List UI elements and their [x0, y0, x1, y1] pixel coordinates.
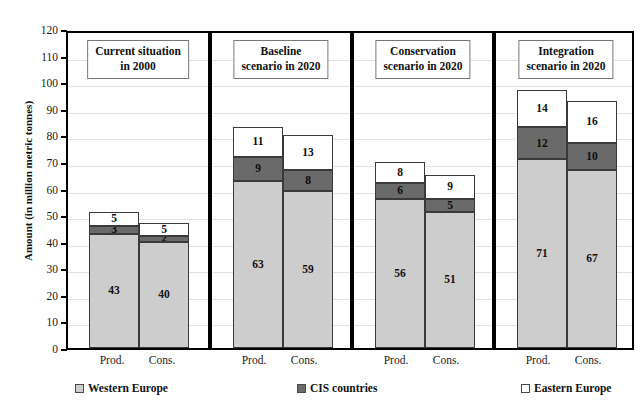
- bar-segment-cis[interactable]: 2: [139, 236, 189, 241]
- y-axis-title: Amount (in million metric tonnes): [22, 31, 34, 331]
- bar-segment-cis[interactable]: 10: [567, 143, 617, 170]
- bar-value-label: 5: [447, 200, 453, 212]
- scenario-panel: Baselinescenario in 20206391159813: [210, 33, 352, 348]
- bar-value-label: 59: [302, 264, 314, 276]
- bar-value-label: 8: [305, 175, 311, 187]
- bar-value-label: 13: [302, 147, 314, 159]
- stacked-bar[interactable]: 5668: [375, 162, 425, 348]
- panel-header-line-2: in 2000: [95, 59, 181, 74]
- bar-segment-eastern[interactable]: 5: [89, 212, 139, 225]
- bar-value-label: 71: [536, 248, 548, 260]
- bar-segment-cis[interactable]: 8: [283, 170, 333, 191]
- bar-value-label: 67: [586, 253, 598, 265]
- x-tick-label: Cons.: [279, 354, 329, 366]
- legend-swatch-icon: [297, 384, 306, 393]
- bar-segment-cis[interactable]: 9: [233, 157, 283, 181]
- bar-segment-eastern[interactable]: 8: [375, 162, 425, 183]
- y-tick-label: 40: [30, 237, 58, 249]
- bar-segment-eastern[interactable]: 14: [517, 90, 567, 127]
- bar-segment-western[interactable]: 67: [567, 170, 617, 348]
- scenario-panel: Conservationscenario in 202056685159: [352, 33, 494, 348]
- x-tick-label: Prod.: [87, 354, 137, 366]
- bar-value-label: 9: [255, 163, 261, 175]
- y-tick-label: 50: [30, 210, 58, 222]
- bar-value-label: 10: [586, 151, 598, 163]
- panel-header-line-1: Integration: [526, 44, 605, 59]
- stacked-bar[interactable]: 63911: [233, 127, 283, 348]
- bar-value-label: 43: [108, 285, 120, 297]
- x-tick-label: Prod.: [371, 354, 421, 366]
- bar-value-label: 14: [536, 103, 548, 115]
- bar-segment-western[interactable]: 63: [233, 181, 283, 348]
- scenario-panel: Integrationscenario in 2020711214671016: [494, 33, 636, 348]
- legend-item[interactable]: CIS countries: [297, 382, 377, 394]
- chart-title: in 2020 under the three alternative scen…: [0, 0, 642, 4]
- y-tick-label: 70: [30, 157, 58, 169]
- bar-segment-western[interactable]: 51: [425, 212, 475, 348]
- stacked-bar[interactable]: 711214: [517, 90, 567, 348]
- bar-segment-eastern[interactable]: 5: [139, 223, 189, 236]
- chart-legend: Western EuropeCIS countriesEastern Europ…: [0, 382, 642, 402]
- bar-value-label: 5: [111, 213, 117, 225]
- stacked-bar[interactable]: 5159: [425, 175, 475, 348]
- y-tick-label: 80: [30, 130, 58, 142]
- bar-segment-eastern[interactable]: 9: [425, 175, 475, 199]
- x-tick-label: Prod.: [229, 354, 279, 366]
- bar-value-label: 51: [444, 274, 456, 286]
- bar-segment-eastern[interactable]: 11: [233, 127, 283, 156]
- bar-segment-western[interactable]: 71: [517, 159, 567, 348]
- legend-swatch-icon: [521, 384, 530, 393]
- bar-segment-eastern[interactable]: 13: [283, 135, 333, 170]
- legend-item[interactable]: Western Europe: [75, 382, 168, 394]
- stacked-bar[interactable]: 59813: [283, 135, 333, 348]
- bar-value-label: 11: [253, 136, 264, 148]
- bar-value-label: 5: [161, 224, 167, 236]
- panel-header-line-1: Baseline: [241, 44, 320, 59]
- panel-header-line-2: scenario in 2020: [526, 59, 605, 74]
- x-tick-label: Cons.: [137, 354, 187, 366]
- legend-swatch-icon: [75, 384, 84, 393]
- bar-segment-cis[interactable]: 6: [375, 183, 425, 199]
- bar-segment-western[interactable]: 56: [375, 199, 425, 348]
- legend-item[interactable]: Eastern Europe: [521, 382, 611, 394]
- bar-segment-cis[interactable]: 5: [425, 199, 475, 212]
- bar-value-label: 3: [111, 226, 117, 234]
- panel-header-line-2: scenario in 2020: [241, 59, 320, 74]
- y-tick-label: 0: [30, 343, 58, 355]
- y-tick-label: 60: [30, 184, 58, 196]
- y-tick-label: 20: [30, 290, 58, 302]
- bar-value-label: 16: [586, 116, 598, 128]
- bar-segment-western[interactable]: 40: [139, 242, 189, 348]
- x-tick-label: Cons.: [421, 354, 471, 366]
- bar-segment-eastern[interactable]: 16: [567, 101, 617, 144]
- legend-label: CIS countries: [310, 382, 377, 394]
- legend-label: Western Europe: [88, 382, 168, 394]
- panel-header: Current situationin 2000: [87, 40, 189, 79]
- y-tick-label: 90: [30, 104, 58, 116]
- scenario-panel: Current situationin 200043354025: [68, 33, 210, 348]
- y-tick-label: 110: [30, 51, 58, 63]
- bar-value-label: 9: [447, 181, 453, 193]
- stacked-bar[interactable]: 4025: [139, 223, 189, 348]
- bar-value-label: 63: [252, 259, 264, 271]
- y-tick-label: 30: [30, 263, 58, 275]
- panel-header: Conservationscenario in 2020: [375, 40, 470, 79]
- bar-segment-cis[interactable]: 3: [89, 226, 139, 234]
- x-tick-label: Cons.: [563, 354, 613, 366]
- panel-header: Integrationscenario in 2020: [518, 40, 613, 79]
- bar-value-label: 56: [394, 268, 406, 280]
- stacked-bar[interactable]: 671016: [567, 101, 617, 348]
- bar-segment-cis[interactable]: 12: [517, 127, 567, 159]
- bar-segment-western[interactable]: 43: [89, 234, 139, 348]
- panel-header-line-1: Current situation: [95, 44, 181, 59]
- panel-header: Baselinescenario in 2020: [233, 40, 328, 79]
- bar-segment-western[interactable]: 59: [283, 191, 333, 348]
- y-tick-label: 100: [30, 77, 58, 89]
- panel-header-line-2: scenario in 2020: [383, 59, 462, 74]
- stacked-bar[interactable]: 4335: [89, 212, 139, 348]
- bar-value-label: 6: [397, 185, 403, 197]
- y-tick-label: 120: [30, 24, 58, 36]
- plot-area: Current situationin 200043354025Baseline…: [66, 31, 634, 350]
- panel-header-line-1: Conservation: [383, 44, 462, 59]
- y-tick-label: 10: [30, 316, 58, 328]
